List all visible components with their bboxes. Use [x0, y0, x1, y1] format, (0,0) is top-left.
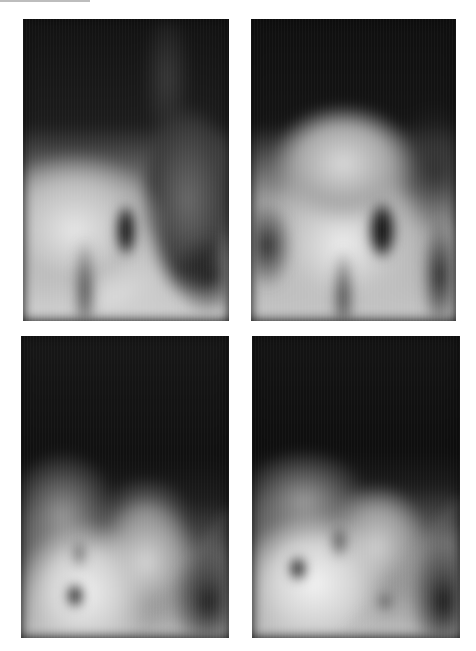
- radiograph-panel-bottom-left: [21, 336, 229, 638]
- scan-grain: [23, 19, 229, 321]
- scan-grain: [21, 336, 229, 638]
- scan-grain: [251, 19, 456, 321]
- scan-grain: [252, 336, 460, 638]
- radiograph-panel-top-right: [251, 19, 456, 321]
- radiograph-panel-top-left: [23, 19, 229, 321]
- top-edge-bar: [0, 0, 90, 2]
- radiograph-panel-bottom-right: [252, 336, 460, 638]
